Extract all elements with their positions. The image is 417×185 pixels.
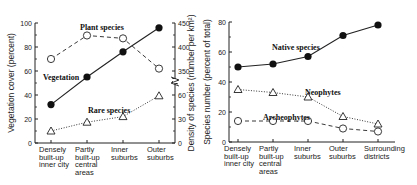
open-circle-marker	[47, 55, 54, 62]
tick-label: 0	[178, 140, 182, 147]
series-line	[51, 28, 159, 105]
series-label-archeophytes: Archeophytes	[263, 113, 310, 122]
tick-label: 100	[20, 20, 32, 27]
filled-circle-marker	[374, 21, 381, 28]
filled-circle-marker	[47, 101, 54, 108]
category-label: inner city	[224, 159, 254, 168]
filled-circle-marker	[234, 63, 241, 70]
left-y-axis-label: Vegetation cover (percent)	[6, 33, 16, 133]
right-chart-x-ticks: Denselybuilt-upinner cityPartlybuilt-upc…	[224, 139, 405, 176]
tick-label: 40	[218, 79, 226, 86]
category-label: suburbs	[147, 153, 174, 162]
right-y-axis-label: Density of species (number per km²)	[186, 14, 196, 151]
series-label-vegetation: Vegetation	[43, 73, 80, 82]
open-triangle-marker	[155, 92, 163, 99]
open-triangle-marker	[269, 89, 277, 96]
left-chart: 020406080100 03060350400450 Denselybuilt…	[6, 14, 196, 176]
open-circle-marker	[119, 35, 126, 42]
left-x-ticks: Denselybuilt-upinner cityPartlybuilt-upc…	[39, 140, 174, 177]
tick-label: 80	[218, 19, 226, 26]
filled-circle-marker	[119, 48, 126, 55]
tick-label: 60	[218, 49, 226, 56]
filled-circle-marker	[304, 53, 311, 60]
tick-label: 20	[24, 116, 32, 123]
filled-circle-marker	[269, 60, 276, 67]
series-label-neophytes: Neophytes	[305, 88, 341, 97]
filled-circle-marker	[155, 24, 162, 31]
category-label: areas	[75, 168, 94, 177]
category-label: inner city	[39, 160, 69, 169]
tick-label: 80	[24, 44, 32, 51]
tick-label: 40	[24, 92, 32, 99]
open-circle-marker	[155, 65, 162, 72]
right-chart-y-ticks: 020406080	[218, 19, 232, 146]
series-label-rare-species: Rare species	[88, 106, 130, 115]
category-label: suburbs	[329, 152, 356, 161]
series-label-plant-species: Plant species	[80, 23, 124, 32]
category-label: suburbs	[294, 152, 321, 161]
open-circle-marker	[374, 128, 381, 135]
series-line	[51, 35, 159, 68]
tick-label: 0	[28, 140, 32, 147]
figure: 020406080100 03060350400450 Denselybuilt…	[0, 0, 417, 185]
category-label: suburbs	[111, 153, 138, 162]
category-label: areas	[259, 167, 278, 176]
open-triangle-marker	[234, 86, 242, 93]
open-triangle-marker	[339, 113, 347, 120]
right-chart: 020406080 Denselybuilt-upinner cityPartl…	[202, 19, 405, 176]
filled-circle-marker	[83, 73, 90, 80]
series-label-native-species: Native species	[272, 43, 320, 52]
tick-label: 20	[218, 109, 226, 116]
tick-label: 60	[24, 68, 32, 75]
open-circle-marker	[234, 117, 241, 124]
filled-circle-marker	[339, 32, 346, 39]
tick-label: 30	[178, 116, 186, 123]
right-chart-y-axis-label: Species number (percent of total)	[202, 19, 212, 145]
open-circle-marker	[339, 125, 346, 132]
open-circle-marker	[83, 32, 90, 39]
category-label: districts	[364, 152, 390, 161]
tick-label: 60	[178, 92, 186, 99]
